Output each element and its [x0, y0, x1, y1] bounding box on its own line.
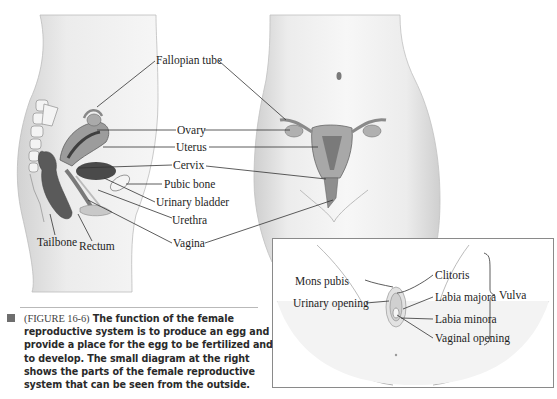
- caption-bullet-icon: [7, 314, 15, 322]
- label-cervix: Cervix: [173, 159, 204, 172]
- label-clitoris: Clitoris: [435, 269, 470, 282]
- label-fallopian-tube: Fallopian tube: [156, 54, 222, 67]
- label-vagina: Vagina: [173, 237, 205, 250]
- label-mons-pubis: Mons pubis: [295, 275, 349, 288]
- figure-caption: (FIGURE 16-6) The function of the female…: [24, 312, 278, 391]
- label-urinary-bladder: Urinary bladder: [156, 196, 229, 209]
- label-vulva: Vulva: [499, 289, 526, 302]
- vulva-illustration: [273, 239, 553, 387]
- label-rectum: Rectum: [79, 240, 115, 253]
- label-uterus: Uterus: [176, 141, 207, 154]
- label-ovary: Ovary: [177, 124, 206, 137]
- caption-text: The function of the female reproductive …: [24, 313, 273, 390]
- label-labia-majora: Labia majora: [435, 291, 496, 304]
- label-urethra: Urethra: [172, 214, 207, 227]
- label-vaginal-opening: Vaginal opening: [435, 332, 510, 345]
- vulva-inset-diagram: Mons pubis Urinary opening Clitoris Labi…: [272, 238, 554, 388]
- figure-reference: (FIGURE 16-6): [24, 313, 89, 324]
- caption-rule: [20, 307, 258, 308]
- label-pubic-bone: Pubic bone: [164, 178, 215, 191]
- label-urinary-opening: Urinary opening: [293, 297, 369, 310]
- label-labia-minora: Labia minora: [435, 313, 497, 326]
- label-tailbone: Tailbone: [37, 236, 77, 249]
- front-view-torso: [254, 15, 440, 262]
